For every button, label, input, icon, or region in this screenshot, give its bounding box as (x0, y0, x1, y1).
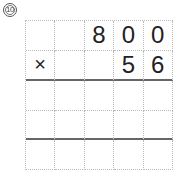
answer-cell[interactable] (55, 81, 84, 111)
question-number-badge: 10 (3, 3, 17, 17)
answer-cell[interactable] (144, 111, 173, 141)
multiplicand-digit: 0 (114, 21, 143, 51)
result-cell[interactable] (114, 140, 143, 170)
answer-cell[interactable] (114, 111, 143, 141)
grid-cell (26, 21, 55, 51)
answer-cell[interactable] (114, 81, 143, 111)
multiplier-digit: 6 (144, 51, 173, 81)
answer-cell[interactable] (85, 81, 114, 111)
grid-cell (55, 21, 84, 51)
result-cell[interactable] (85, 140, 114, 170)
answer-cell[interactable] (26, 81, 55, 111)
grid-cell (85, 51, 114, 81)
answer-cell[interactable] (26, 111, 55, 141)
multiplicand-digit: 8 (85, 21, 114, 51)
result-cell[interactable] (55, 140, 84, 170)
multiplication-grid: 8 0 0 × 5 6 (25, 20, 173, 170)
result-cell[interactable] (26, 140, 55, 170)
grid-cell (55, 51, 84, 81)
answer-cell[interactable] (55, 111, 84, 141)
multiplier-digit: 5 (114, 51, 143, 81)
answer-cell[interactable] (144, 81, 173, 111)
answer-cell[interactable] (85, 111, 114, 141)
multiplicand-digit: 0 (144, 21, 173, 51)
result-cell[interactable] (144, 140, 173, 170)
multiply-sign: × (26, 51, 55, 81)
